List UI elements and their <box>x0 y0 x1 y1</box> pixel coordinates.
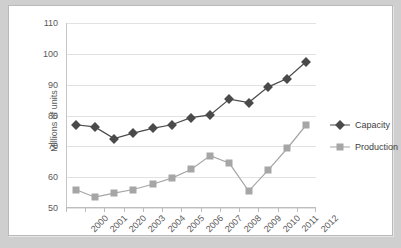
x-axis-tick <box>85 208 86 212</box>
legend-item-capacity: Capacity <box>330 114 394 136</box>
data-point-production <box>284 145 291 152</box>
y-axis-tick-label: 90 <box>48 80 58 90</box>
y-axis-tick-label: 60 <box>48 172 58 182</box>
x-axis-tick <box>66 208 67 212</box>
data-point-production <box>264 167 271 174</box>
data-point-production <box>111 190 118 197</box>
x-axis-tick <box>297 208 298 212</box>
x-axis-tick-label: 2012 <box>319 213 340 234</box>
x-axis-tick-label: 2000 <box>88 213 109 234</box>
x-axis-tick <box>201 208 202 212</box>
legend-item-production: Production <box>330 136 394 158</box>
x-axis-tick <box>258 208 259 212</box>
capacity-diamond-icon <box>330 120 350 130</box>
y-axis-tick-label: 110 <box>44 18 58 28</box>
data-point-production <box>207 152 214 159</box>
data-point-production <box>130 186 137 193</box>
x-axis-tick <box>181 208 182 212</box>
data-point-production <box>91 194 98 201</box>
data-point-production <box>72 186 79 193</box>
data-point-production <box>245 188 252 195</box>
data-point-production <box>303 121 310 128</box>
legend-label-capacity: Capacity <box>355 120 390 130</box>
x-axis-tick-label: 2001 <box>108 213 129 234</box>
x-axis-tick <box>143 208 144 212</box>
x-axis-tick-label: 2005 <box>185 213 206 234</box>
data-point-production <box>168 175 175 182</box>
y-axis-tick-label: 80 <box>48 111 58 121</box>
x-axis-tick <box>104 208 105 212</box>
series-line-capacity <box>76 62 307 139</box>
x-axis-tick-label: 2008 <box>242 213 263 234</box>
chart-legend: Capacity Production <box>330 114 394 158</box>
x-axis-tick <box>124 208 125 212</box>
data-point-production <box>149 181 156 188</box>
x-axis-tick-label: 2007 <box>223 213 244 234</box>
y-axis-tick-label: 50 <box>48 203 58 213</box>
y-axis-tick-label: 100 <box>43 49 58 59</box>
x-axis-tick-label: 2004 <box>165 213 186 234</box>
production-square-icon <box>330 142 350 152</box>
chart-screenshot: Millions of units 5060708090100110 20002… <box>0 0 401 248</box>
x-axis-tick <box>239 208 240 212</box>
x-axis-tick-label: 2006 <box>204 213 225 234</box>
x-axis-tick-label: 2020 <box>127 213 148 234</box>
x-axis-tick <box>220 208 221 212</box>
x-axis-tick <box>315 208 316 212</box>
x-axis-tick <box>162 208 163 212</box>
x-axis-tick <box>278 208 279 212</box>
data-point-production <box>226 160 233 167</box>
chart-panel: Millions of units 5060708090100110 20002… <box>8 5 393 236</box>
legend-label-production: Production <box>355 142 398 152</box>
x-axis-tick-label: 2009 <box>262 213 283 234</box>
data-point-production <box>188 166 195 173</box>
y-axis-tick-label: 70 <box>48 141 58 151</box>
x-axis-tick-label: 2011 <box>300 213 321 234</box>
x-axis-tick-label: 2010 <box>281 213 302 234</box>
x-axis-tick-label: 2003 <box>146 213 167 234</box>
plot-area <box>66 23 316 208</box>
